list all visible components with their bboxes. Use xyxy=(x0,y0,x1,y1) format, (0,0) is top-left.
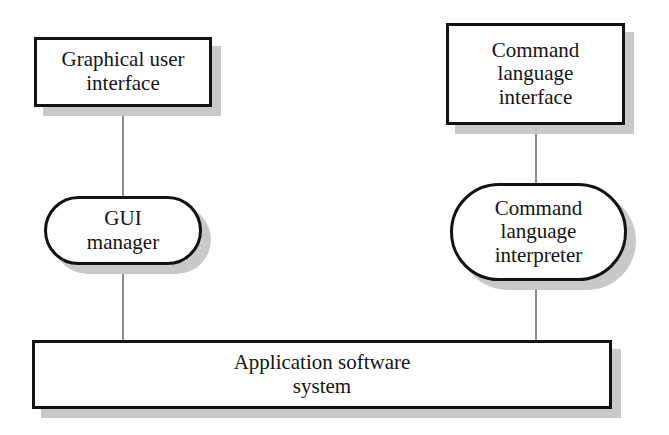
node-label-command-language-interpreter: Command language interpreter xyxy=(495,197,583,268)
connector-gui-manager-to-application xyxy=(122,262,124,342)
node-command-language-interface: Command language interface xyxy=(446,23,625,125)
node-application-software-system: Application software system xyxy=(32,340,612,409)
node-label-gui-manager: GUI manager xyxy=(87,207,159,254)
diagram-canvas: Graphical user interface Command languag… xyxy=(0,0,669,435)
connector-gui-interface-to-gui-manager xyxy=(122,105,124,199)
node-graphical-user-interface: Graphical user interface xyxy=(34,37,212,107)
node-gui-manager: GUI manager xyxy=(44,196,202,265)
node-label-command-language-interface: Command language interface xyxy=(492,39,580,110)
node-label-application-software-system: Application software system xyxy=(234,351,411,398)
node-label-graphical-user-interface: Graphical user interface xyxy=(61,48,184,95)
node-command-language-interpreter: Command language interpreter xyxy=(450,183,627,281)
